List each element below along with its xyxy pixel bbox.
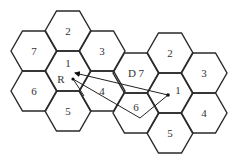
cell-label: 3 xyxy=(201,67,207,79)
hexagon-cell-diagram: 27316452D 731645 R xyxy=(0,0,238,161)
diagram-svg: 27316452D 731645 R xyxy=(0,0,238,161)
cell-label: 5 xyxy=(167,127,173,139)
cell-label: D 7 xyxy=(128,67,145,79)
cell-label: 6 xyxy=(133,101,139,113)
direct-path-arrow xyxy=(75,73,168,95)
cell-label: 7 xyxy=(31,45,37,57)
cell-label: 5 xyxy=(65,105,71,117)
cell-label: 4 xyxy=(201,107,207,119)
branch-path xyxy=(73,79,84,96)
source-point xyxy=(166,93,170,97)
receiver-label: R xyxy=(57,73,65,85)
receiver-point xyxy=(71,77,74,80)
cell-label: 1 xyxy=(175,84,181,96)
cell-label: 6 xyxy=(31,85,37,97)
hex-cells xyxy=(11,11,227,153)
cell-label: 2 xyxy=(65,25,71,37)
cell-label: 3 xyxy=(99,45,105,57)
cell-label: 1 xyxy=(65,57,71,69)
cell-label: 2 xyxy=(167,47,173,59)
